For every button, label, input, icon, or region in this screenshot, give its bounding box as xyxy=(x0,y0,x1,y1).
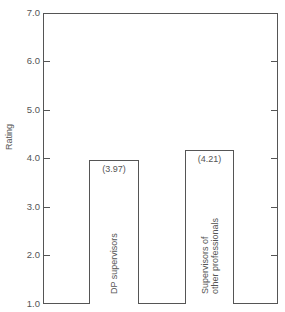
y-tick-label: 1.0 xyxy=(0,299,40,309)
y-tick-label: 5.0 xyxy=(0,105,40,115)
y-tick-mark-right xyxy=(271,207,278,208)
y-tick-mark-right xyxy=(271,158,278,159)
bar-other-supervisors: (4.21) Supervisors of other professional… xyxy=(185,150,234,304)
y-tick-mark-right xyxy=(271,255,278,256)
bar-category-label: Supervisors of other professionals xyxy=(200,218,220,294)
bar-dp-supervisors: (3.97) DP supervisors xyxy=(89,160,139,304)
y-tick-mark xyxy=(43,158,50,159)
y-tick-label: 6.0 xyxy=(0,56,40,66)
y-tick-label: 4.0 xyxy=(0,153,40,163)
y-tick-mark xyxy=(43,255,50,256)
y-tick-mark-right xyxy=(271,110,278,111)
y-tick-label: 7.0 xyxy=(0,8,40,18)
y-tick-mark xyxy=(43,61,50,62)
bar-value-label: (4.21) xyxy=(186,154,233,164)
y-axis-label: Rating xyxy=(4,124,14,150)
y-tick-mark xyxy=(43,110,50,111)
bar-category-label: DP supervisors xyxy=(109,233,119,294)
y-tick-label: 3.0 xyxy=(0,202,40,212)
y-tick-mark-right xyxy=(271,61,278,62)
y-tick-mark xyxy=(43,207,50,208)
plot-area xyxy=(43,13,278,304)
y-tick-label: 2.0 xyxy=(0,250,40,260)
bar-value-label: (3.97) xyxy=(90,164,138,174)
